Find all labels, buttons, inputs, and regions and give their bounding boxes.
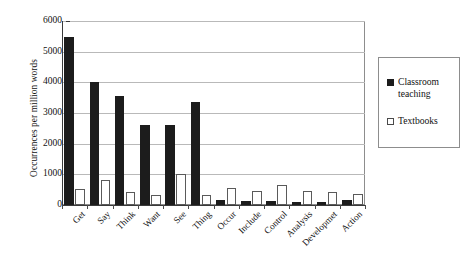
bars-group (62, 21, 365, 205)
legend-label-classroom-teaching: Classroom teaching (398, 76, 459, 99)
bar-occur-classroom (216, 200, 226, 205)
x-tick-mark-6 (214, 205, 215, 209)
bar-chart-figure: Occurrences per million words 0100020003… (0, 0, 465, 273)
x-tick-mark-5 (188, 205, 189, 209)
x-tick-mark-0 (62, 205, 63, 209)
open-square-icon (387, 118, 394, 125)
x-axis-label-see: See (171, 209, 187, 225)
bar-analysis-textbooks (303, 191, 313, 205)
bar-control-textbooks (277, 185, 287, 205)
bar-say-classroom (90, 82, 100, 205)
bar-analysis-classroom (292, 202, 302, 205)
bar-see-textbooks (176, 174, 186, 205)
y-tick-label-2000: 2000 (16, 138, 62, 148)
x-axis-label-include: Include (237, 209, 264, 236)
y-tick-label-3000: 3000 (16, 107, 62, 117)
bar-want-classroom (140, 125, 150, 205)
x-axis-label-want: Want (142, 209, 163, 230)
x-axis-label-get: Get (70, 209, 86, 225)
bar-want-textbooks (151, 195, 161, 205)
x-axis-label-thing: Thing (190, 209, 213, 232)
y-tick-label-5000: 5000 (16, 46, 62, 56)
bar-say-textbooks (101, 180, 111, 205)
x-tick-mark-9 (289, 205, 290, 209)
filled-square-icon (387, 79, 394, 86)
bar-developmet-textbooks (328, 192, 338, 205)
x-tick-mark-11 (340, 205, 341, 209)
bar-get-textbooks (75, 189, 85, 205)
x-axis-label-think: Think (115, 209, 138, 232)
bar-action-classroom (342, 200, 352, 205)
x-tick-mark-2 (113, 205, 114, 209)
y-tick-label-1000: 1000 (16, 168, 62, 178)
bar-action-textbooks (353, 194, 363, 205)
bar-occur-textbooks (227, 188, 237, 205)
x-tick-mark-4 (163, 205, 164, 209)
x-axis-label-occur: Occur (215, 209, 238, 232)
x-tick-mark-3 (138, 205, 139, 209)
legend-item-classroom-teaching: Classroom teaching (387, 76, 459, 99)
y-tick-label-0: 0 (16, 199, 62, 209)
x-tick-mark-12 (365, 205, 366, 209)
y-tick-label-4000: 4000 (16, 76, 62, 86)
legend-item-textbooks: Textbooks (387, 115, 438, 127)
x-tick-mark-7 (239, 205, 240, 209)
legend: Classroom teaching Textbooks (378, 57, 460, 148)
bar-include-classroom (241, 201, 251, 205)
bar-think-classroom (115, 96, 125, 205)
bar-include-textbooks (252, 191, 262, 205)
bar-get-classroom (64, 37, 74, 205)
bar-see-classroom (165, 125, 175, 205)
bar-control-classroom (266, 201, 276, 205)
x-tick-mark-10 (315, 205, 316, 209)
x-tick-mark-8 (264, 205, 265, 209)
y-tick-label-6000: 6000 (16, 15, 62, 25)
x-axis-label-say: Say (95, 209, 112, 226)
bar-thing-textbooks (202, 195, 212, 205)
x-axis-label-action: Action (340, 209, 365, 234)
bar-developmet-classroom (317, 202, 327, 205)
x-tick-mark-1 (87, 205, 88, 209)
bar-thing-classroom (191, 102, 201, 205)
legend-label-textbooks: Textbooks (398, 115, 438, 127)
bar-think-textbooks (126, 192, 136, 205)
